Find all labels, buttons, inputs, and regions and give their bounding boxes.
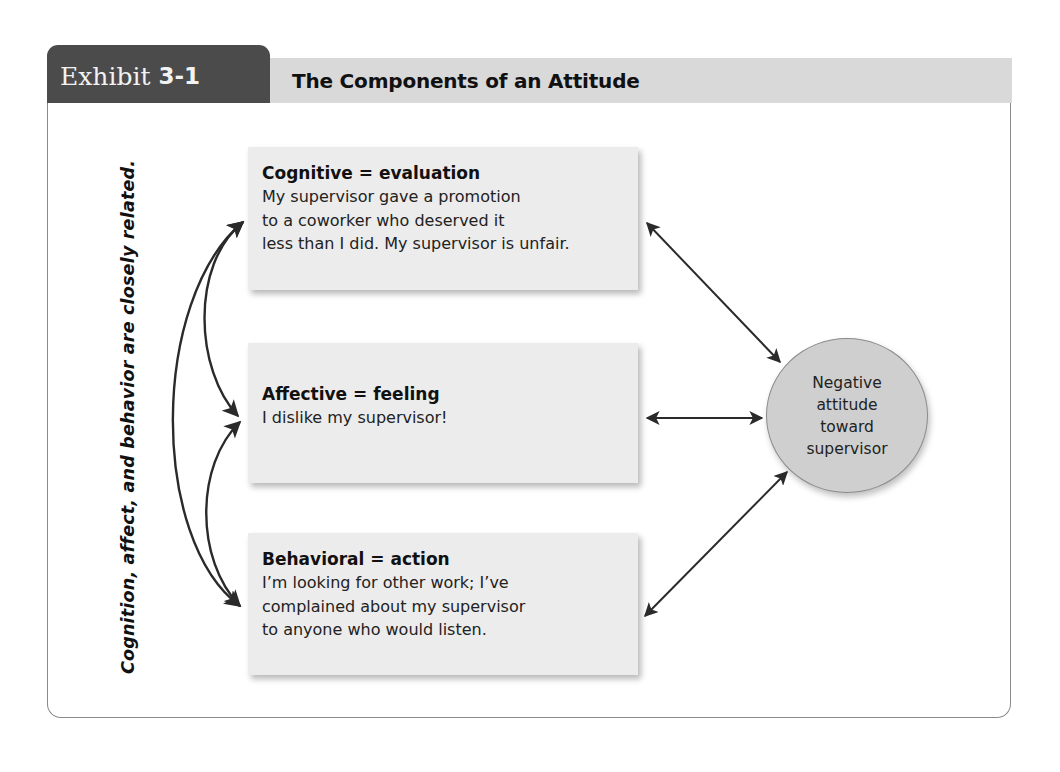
cognitive-outcome-arrow	[647, 223, 780, 362]
outcome-line: Negative	[812, 372, 882, 394]
affective-heading: Affective = feeling	[262, 383, 638, 406]
outcome-line: attitude	[816, 394, 877, 416]
affective-box: Affective = feeling I dislike my supervi…	[248, 343, 638, 483]
behavioral-heading: Behavioral = action	[262, 548, 638, 571]
outcome-line: toward	[820, 416, 874, 438]
cognitive-heading: Cognitive = evaluation	[262, 162, 638, 185]
left-curved-arrows	[173, 222, 243, 606]
affective-behavioral-arrow	[206, 422, 240, 606]
behavioral-box: Behavioral = action I’m looking for othe…	[248, 533, 638, 675]
cognitive-box: Cognitive = evaluation My supervisor gav…	[248, 147, 638, 290]
outcome-circle: Negative attitude toward supervisor	[766, 338, 928, 493]
behavioral-outcome-arrow	[645, 472, 787, 616]
cognitive-line: to a coworker who deserved it	[262, 209, 638, 233]
cognitive-line: My supervisor gave a promotion	[262, 185, 638, 209]
outcome-line: supervisor	[806, 438, 887, 460]
affective-line: I dislike my supervisor!	[262, 406, 638, 430]
cognitive-affective-arrow	[205, 222, 244, 416]
behavioral-line: complained about my supervisor	[262, 595, 638, 619]
behavioral-line: I’m looking for other work; I’ve	[262, 571, 638, 595]
behavioral-line: to anyone who would listen.	[262, 618, 638, 642]
cognitive-line: less than I did. My supervisor is unfair…	[262, 232, 638, 256]
